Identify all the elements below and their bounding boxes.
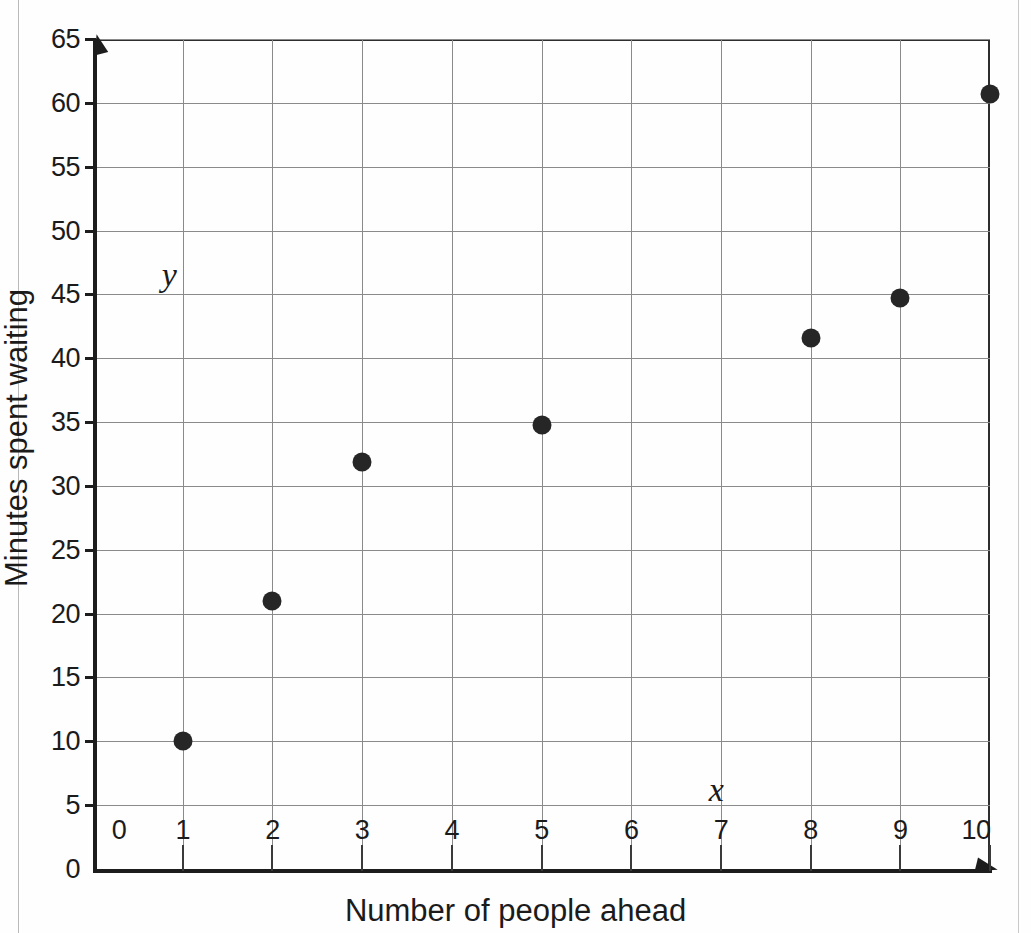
x-tick-mark-1 (182, 845, 184, 871)
y-tick-mark-10 (85, 740, 96, 743)
y-tick-mark-30 (85, 485, 96, 488)
x-tick-label-9: 9 (893, 815, 908, 846)
data-point (801, 328, 820, 347)
x-tick-label-3: 3 (355, 815, 370, 846)
chart-page: yx 05101520253035404550556065 0123456789… (0, 0, 1031, 933)
data-point (173, 732, 192, 751)
y-tick-label-35: 35 (28, 407, 80, 438)
x-tick-mark-8 (810, 845, 812, 871)
x-tick-mark-10 (989, 845, 991, 871)
y-tick-label-60: 60 (28, 87, 80, 118)
x-tick-label-5: 5 (534, 815, 549, 846)
y-tick-label-15: 15 (28, 662, 80, 693)
y-tick-label-20: 20 (28, 598, 80, 629)
y-tick-mark-65 (85, 38, 96, 41)
y-axis-line (93, 39, 97, 873)
y-tick-mark-15 (85, 676, 96, 679)
gridline-v-7 (721, 39, 722, 871)
plot-border-right (988, 39, 990, 871)
x-axis-title: Number of people ahead (0, 893, 1031, 929)
data-point (891, 289, 910, 308)
y-tick-label-40: 40 (28, 343, 80, 374)
annotation-y: y (162, 256, 177, 294)
gridline-v-8 (811, 39, 812, 871)
data-point (263, 591, 282, 610)
x-tick-mark-7 (720, 845, 722, 871)
y-tick-label-30: 30 (28, 470, 80, 501)
plot-area: yx (93, 39, 990, 871)
x-tick-mark-9 (899, 845, 901, 871)
y-tick-mark-55 (85, 166, 96, 169)
data-point (353, 452, 372, 471)
gridline-v-5 (542, 39, 543, 871)
x-tick-label-1: 1 (175, 815, 190, 846)
x-tick-label-7: 7 (714, 815, 729, 846)
top-clipped-caption (250, 0, 870, 5)
y-tick-label-50: 50 (28, 215, 80, 246)
y-tick-label-0: 0 (28, 854, 80, 885)
x-tick-mark-3 (361, 845, 363, 871)
y-tick-label-25: 25 (28, 534, 80, 565)
x-axis-line (93, 869, 992, 873)
x-tick-label-6: 6 (624, 815, 639, 846)
y-tick-mark-25 (85, 549, 96, 552)
y-axis-title: Minutes spent waiting (0, 88, 35, 788)
y-tick-label-55: 55 (28, 151, 80, 182)
annotation-x: x (709, 771, 724, 809)
y-tick-mark-20 (85, 613, 96, 616)
x-tick-label-2: 2 (265, 815, 280, 846)
data-point (981, 84, 1000, 103)
y-tick-mark-40 (85, 357, 96, 360)
gridline-v-4 (452, 39, 453, 871)
x-axis-arrow-icon (975, 858, 1000, 877)
y-tick-mark-5 (85, 804, 96, 807)
y-tick-mark-45 (85, 293, 96, 296)
scan-edge-right (1018, 0, 1019, 933)
y-tick-mark-60 (85, 102, 96, 105)
y-tick-label-10: 10 (28, 726, 80, 757)
y-tick-label-45: 45 (28, 279, 80, 310)
x-tick-label-0: 0 (112, 815, 127, 846)
gridline-v-9 (900, 39, 901, 871)
x-tick-label-10: 10 (961, 815, 990, 846)
x-tick-mark-4 (451, 845, 453, 871)
x-tick-label-8: 8 (803, 815, 818, 846)
x-tick-mark-2 (271, 845, 273, 871)
gridline-v-6 (631, 39, 632, 871)
y-tick-label-5: 5 (28, 790, 80, 821)
x-tick-mark-5 (541, 845, 543, 871)
y-tick-mark-50 (85, 230, 96, 233)
y-tick-label-65: 65 (28, 24, 80, 55)
x-tick-label-4: 4 (445, 815, 460, 846)
gridline-v-2 (272, 39, 273, 871)
data-point (532, 415, 551, 434)
y-tick-mark-35 (85, 421, 96, 424)
x-tick-mark-6 (630, 845, 632, 871)
